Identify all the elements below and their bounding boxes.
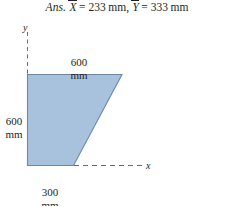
- top-dimension-label: 600 mm: [54, 56, 104, 81]
- left-dimension-unit: mm: [0, 128, 28, 141]
- x-equals-sign: =: [77, 1, 88, 13]
- left-dimension-value: 600: [0, 115, 28, 128]
- x-value: 233: [88, 1, 107, 13]
- x-bar-symbol: X: [69, 1, 77, 14]
- y-equals-sign: =: [139, 1, 150, 13]
- y-value: 333: [150, 1, 169, 13]
- answer-separator: ,: [126, 1, 129, 13]
- bottom-dimension-value: 300: [25, 186, 75, 199]
- top-dimension-unit: mm: [54, 69, 104, 82]
- x-unit: mm: [107, 1, 126, 13]
- diagram-canvas: y x: [0, 18, 234, 206]
- answer-line: Ans. X=233mm, Y=333mm: [0, 1, 234, 14]
- figure-page: Ans. X=233mm, Y=333mm y x 600 mm 600 mm …: [0, 0, 234, 206]
- bottom-dimension-label: 300 mm: [25, 186, 75, 206]
- top-dimension-value: 600: [54, 56, 104, 69]
- bottom-dimension-unit: mm: [25, 199, 75, 207]
- y-bar-symbol: Y: [132, 1, 139, 14]
- left-dimension-label: 600 mm: [0, 115, 28, 140]
- trapezoid-diagram: y x 600 mm 600 mm 300 mm: [0, 18, 234, 206]
- trapezoid-shape: [28, 75, 123, 166]
- answer-prefix: Ans.: [46, 1, 67, 13]
- y-unit: mm: [169, 1, 188, 13]
- x-axis-label: x: [145, 160, 151, 171]
- y-axis-label: y: [22, 22, 28, 33]
